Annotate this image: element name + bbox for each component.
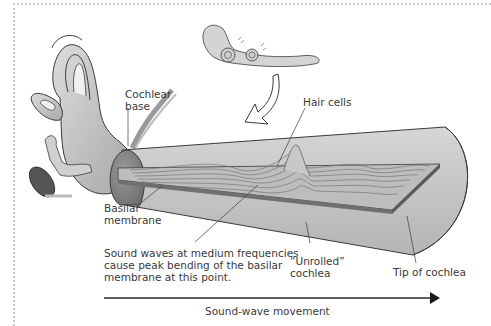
label-unrolled-cochlea: “Unrolled” cochlea xyxy=(290,255,345,279)
right-arrow-icon xyxy=(104,292,440,304)
label-sound-wave-movement: Sound-wave movement xyxy=(205,305,330,317)
label-basilar-membrane: Basilar membrane xyxy=(104,202,161,226)
curved-arrow-icon xyxy=(245,74,279,124)
label-tip-of-cochlea: Tip of cochlea xyxy=(393,266,466,278)
label-hair-cells: Hair cells xyxy=(303,96,351,108)
unrolling-cochlea-icon xyxy=(203,25,319,66)
label-cochlear-base: Cochlear base xyxy=(125,88,171,112)
label-sound-waves-note: Sound waves at medium frequencies cause … xyxy=(104,247,299,283)
